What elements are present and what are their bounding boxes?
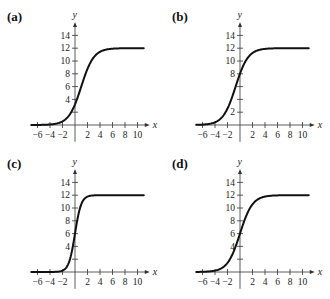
logistic-curve <box>31 48 144 125</box>
x-tick-label: 10 <box>298 277 308 287</box>
x-tick-label: −6 <box>32 130 42 140</box>
y-tick-label: 12 <box>61 43 71 53</box>
x-tick-label: 2 <box>250 130 255 140</box>
x-tick-label: −6 <box>197 277 207 287</box>
y-tick-label: 4 <box>65 95 70 105</box>
x-tick-label: −2 <box>57 130 67 140</box>
x-axis-arrow-icon <box>310 270 315 274</box>
x-tick-label: 8 <box>288 130 293 140</box>
y-tick-label: 10 <box>61 56 71 66</box>
panel-label: (c) <box>7 156 21 171</box>
y-tick-label: 8 <box>65 216 70 226</box>
panel-label: (b) <box>172 9 188 24</box>
x-tick-label: 6 <box>110 277 115 287</box>
panel-c: (c)xy−6−4−2246810468101214 <box>7 156 158 289</box>
x-axis-label: x <box>317 266 323 277</box>
x-tick-label: 4 <box>263 277 268 287</box>
x-axis-arrow-icon <box>310 123 315 127</box>
y-tick-label: 10 <box>226 56 236 66</box>
x-axis-label: x <box>152 119 158 130</box>
x-tick-label: −2 <box>222 130 232 140</box>
x-axis-arrow-icon <box>145 270 150 274</box>
y-tick-label: 8 <box>230 69 235 79</box>
y-tick-label: 14 <box>226 178 236 188</box>
y-tick-label: 2 <box>230 107 235 117</box>
x-tick-label: 8 <box>288 277 293 287</box>
y-axis-arrow-icon <box>73 169 77 174</box>
figure: (a)xy−6−4−2246810468101214 (b)xy−6−4−224… <box>0 0 330 299</box>
x-tick-label: 4 <box>98 130 103 140</box>
panel-a: (a)xy−6−4−2246810468101214 <box>7 9 158 142</box>
x-tick-label: 10 <box>133 130 143 140</box>
panel-label: (d) <box>172 156 188 171</box>
x-tick-label: −6 <box>197 130 207 140</box>
y-axis-arrow-icon <box>238 169 242 174</box>
y-tick-label: 6 <box>65 82 70 92</box>
x-tick-label: 10 <box>298 130 308 140</box>
y-axis-arrow-icon <box>73 22 77 27</box>
x-tick-label: 6 <box>275 130 280 140</box>
panel-b: (b)xy−6−4−224681028101214 <box>172 9 323 142</box>
x-tick-label: 2 <box>250 277 255 287</box>
logistic-curve <box>196 48 309 125</box>
y-tick-label: 12 <box>226 190 236 200</box>
y-tick-label: 8 <box>65 69 70 79</box>
x-tick-label: −4 <box>210 130 220 140</box>
y-axis-label: y <box>72 156 78 167</box>
x-tick-label: 2 <box>85 130 90 140</box>
x-tick-label: −2 <box>57 277 67 287</box>
y-axis-label: y <box>72 9 78 20</box>
x-axis-label: x <box>152 266 158 277</box>
y-tick-label: 6 <box>230 229 235 239</box>
y-tick-label: 12 <box>226 43 236 53</box>
x-tick-label: −4 <box>45 277 55 287</box>
y-tick-label: 6 <box>65 229 70 239</box>
logistic-curve <box>196 195 309 272</box>
y-tick-label: 14 <box>61 178 71 188</box>
x-tick-label: −6 <box>32 277 42 287</box>
x-tick-label: 10 <box>133 277 143 287</box>
x-tick-label: 2 <box>85 277 90 287</box>
y-tick-label: 10 <box>61 203 71 213</box>
panel-label: (a) <box>7 9 22 24</box>
x-tick-label: 6 <box>275 277 280 287</box>
x-axis-arrow-icon <box>145 123 150 127</box>
y-tick-label: 14 <box>61 31 71 41</box>
logistic-curve <box>31 195 144 272</box>
x-tick-label: 4 <box>98 277 103 287</box>
x-tick-label: −4 <box>210 277 220 287</box>
x-tick-label: 8 <box>123 130 128 140</box>
y-axis-arrow-icon <box>238 22 242 27</box>
y-axis-label: y <box>237 9 243 20</box>
x-tick-label: −4 <box>45 130 55 140</box>
y-tick-label: 4 <box>65 242 70 252</box>
x-tick-label: 4 <box>263 130 268 140</box>
y-axis-label: y <box>237 156 243 167</box>
y-tick-label: 14 <box>226 31 236 41</box>
y-tick-label: 8 <box>230 216 235 226</box>
x-axis-label: x <box>317 119 323 130</box>
y-tick-label: 10 <box>226 203 236 213</box>
x-tick-label: −2 <box>222 277 232 287</box>
x-tick-label: 8 <box>123 277 128 287</box>
panel-d: (d)xy−6−4−2246810468101214 <box>172 156 323 289</box>
x-tick-label: 6 <box>110 130 115 140</box>
y-tick-label: 12 <box>61 190 71 200</box>
